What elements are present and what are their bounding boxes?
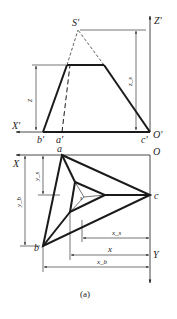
x-dim-label: x [107, 244, 112, 254]
z-axis-label: Z' [154, 15, 163, 26]
inner-triangle [70, 182, 105, 212]
o-prime-label: O' [153, 129, 163, 140]
apex-extension-right [78, 30, 104, 65]
xs-dim-label: x_s [111, 229, 122, 237]
front-view [16, 16, 150, 132]
vertex-b-label: b [34, 242, 39, 253]
figure-caption: (a) [80, 289, 90, 299]
y-axis-label: Y [153, 249, 160, 260]
front-right-edge [104, 65, 150, 132]
zs-dim-label: z_s [126, 77, 134, 87]
apex-label: S' [72, 17, 80, 28]
yb-dim-label: y_b [15, 196, 23, 208]
b-prime-label: b' [37, 134, 45, 145]
ys-dim-label: y_s [33, 171, 41, 182]
c-prime-label: c' [141, 134, 148, 145]
z-dim-label: z [25, 98, 34, 103]
x-prime-label: X' [11, 120, 21, 131]
projection-diagram: S' Z' X' O' b' a' c' z z_s [0, 0, 177, 319]
apex-s-label: s [80, 195, 83, 201]
o-label: O [153, 146, 160, 157]
outer-triangle [43, 155, 150, 246]
vertex-a-label: a [57, 143, 62, 154]
x-axis-label: X [12, 158, 20, 169]
xb-dim-label: x_b [96, 258, 108, 266]
apex-extension-left [67, 30, 78, 65]
vertex-c-label: c [154, 190, 159, 201]
